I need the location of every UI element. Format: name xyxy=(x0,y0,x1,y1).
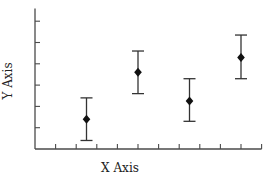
x-axis-label: X Axis xyxy=(101,161,139,175)
data-point xyxy=(235,35,247,79)
diamond-marker-icon xyxy=(237,53,245,62)
data-point xyxy=(184,79,196,122)
data-point xyxy=(81,98,93,141)
x-axis xyxy=(35,144,262,149)
diamond-marker-icon xyxy=(83,115,91,124)
diamond-marker-icon xyxy=(134,68,142,77)
y-axis xyxy=(35,8,40,149)
data-point xyxy=(132,51,144,94)
scatter-chart: X Axis Y Axis xyxy=(0,0,274,183)
y-axis-label: Y Axis xyxy=(1,62,15,100)
diamond-marker-icon xyxy=(186,97,194,106)
data-points xyxy=(81,35,248,140)
